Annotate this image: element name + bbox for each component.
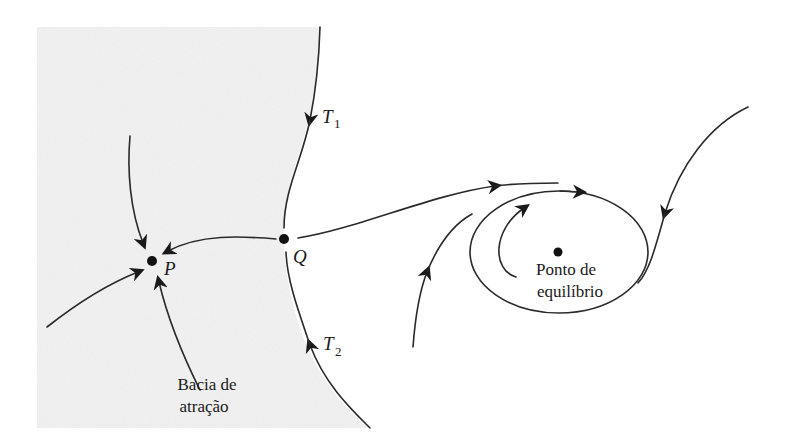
trajectory-lower-left [413, 272, 427, 347]
label-basin-line2: atração [179, 397, 228, 416]
closed-orbit-arrow [560, 191, 580, 192]
label-q: Q [293, 246, 307, 267]
trajectory-q-to-right-end [495, 183, 558, 186]
phase-portrait: P Q T 1 T 2 Bacia de atração Ponto de eq… [0, 0, 785, 446]
inner-rotation-arrow [499, 208, 524, 277]
equilibrium-point [554, 248, 563, 257]
label-equilibrium-line2: equilíbrio [537, 282, 603, 301]
trajectory-right [665, 107, 748, 213]
trajectory-q-to-right [298, 186, 495, 238]
label-t1-sub: 1 [334, 116, 341, 131]
label-t2: T [323, 333, 335, 354]
trajectory-lower-left-end [427, 214, 472, 272]
label-p: P [163, 258, 176, 279]
label-t1: T [322, 106, 334, 127]
label-t2-sub: 2 [335, 344, 342, 359]
label-basin-line1: Bacia de [178, 375, 237, 394]
label-equilibrium-line1: Ponto de [536, 260, 596, 279]
point-q [279, 234, 289, 244]
point-p [147, 256, 157, 266]
